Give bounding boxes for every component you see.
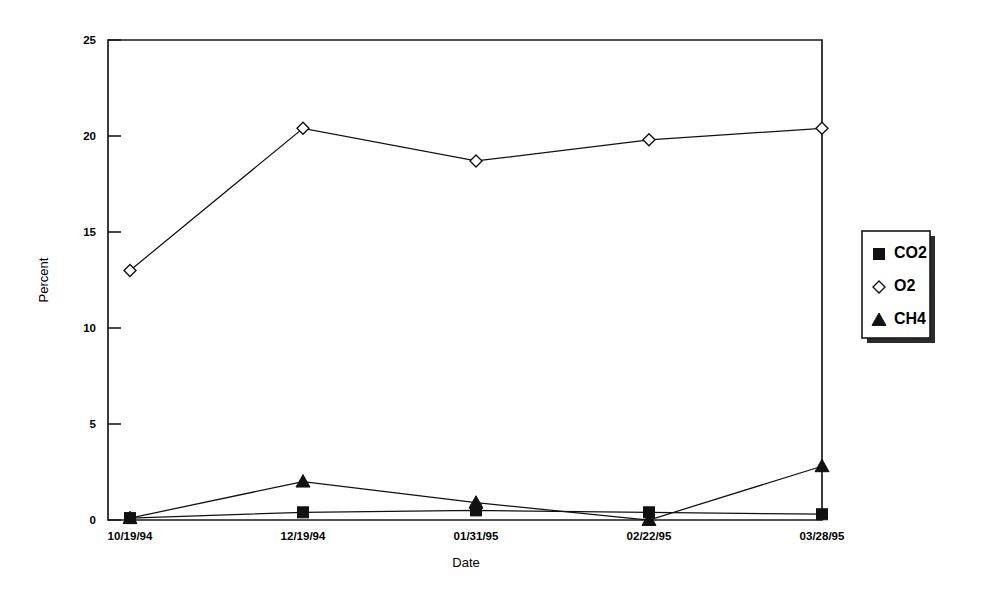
line-chart: 0510152025 10/19/9412/19/9401/31/9502/22… <box>0 0 991 593</box>
x-axis: 10/19/9412/19/9401/31/9502/22/9503/28/95 <box>108 530 845 542</box>
y-axis-title: Percent <box>36 257 51 302</box>
legend-item-label: CO2 <box>894 244 927 261</box>
data-point-marker <box>816 122 828 134</box>
legend-item-label: O2 <box>894 277 915 294</box>
x-axis-tick-label: 02/22/95 <box>627 530 672 542</box>
y-axis-tick-label: 25 <box>83 34 96 46</box>
data-series-group <box>123 122 829 525</box>
legend-item-label: CH4 <box>894 310 926 327</box>
y-axis: 0510152025 <box>83 34 121 526</box>
data-point-marker <box>296 475 310 487</box>
data-point-marker <box>817 509 828 520</box>
data-point-marker <box>298 507 309 518</box>
x-axis-tick-label: 01/31/95 <box>454 530 499 542</box>
plot-area-border <box>108 40 822 520</box>
y-axis-tick-label: 10 <box>83 322 96 334</box>
x-axis-title: Date <box>452 555 479 570</box>
data-point-marker <box>643 134 655 146</box>
series-o2 <box>124 122 828 276</box>
chart-container: 0510152025 10/19/9412/19/9401/31/9502/22… <box>0 0 991 593</box>
legend: CO2O2CH4 <box>862 231 935 343</box>
y-axis-tick-label: 5 <box>90 418 97 430</box>
y-axis-tick-label: 15 <box>83 226 96 238</box>
data-point-marker <box>815 459 829 471</box>
plot-frame <box>108 40 822 520</box>
x-axis-tick-label: 03/28/95 <box>800 530 845 542</box>
series-line <box>130 128 822 270</box>
data-point-marker <box>470 155 482 167</box>
y-axis-tick-label: 20 <box>83 130 96 142</box>
x-axis-tick-label: 12/19/94 <box>281 530 326 542</box>
data-point-marker <box>874 249 885 260</box>
y-axis-tick-label: 0 <box>90 514 96 526</box>
x-axis-tick-label: 10/19/94 <box>108 530 153 542</box>
